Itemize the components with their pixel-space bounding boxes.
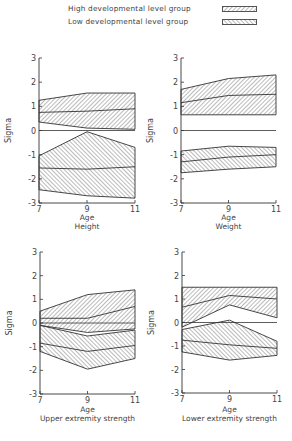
x-tick-label: 11 [271, 205, 281, 214]
y-tick-label: 2 [173, 78, 178, 87]
y-axis-label: Sigma [146, 118, 155, 143]
y-tick-label: -2 [171, 366, 179, 375]
y-tick-label: 0 [173, 127, 178, 136]
y-tick-label: 0 [31, 127, 36, 136]
y-tick-label: 2 [174, 272, 179, 281]
chart-title: Weight [215, 222, 241, 231]
charts-container: 3210-1-2-37911SigmaAgeHeight 3210-1-2-37… [0, 0, 292, 441]
y-tick-label: 0 [174, 319, 179, 328]
y-tick-label: -3 [170, 199, 178, 208]
chart-height: 3210-1-2-37911SigmaAgeHeight [4, 54, 140, 231]
y-tick-label: -1 [171, 342, 179, 351]
y-tick-label: -2 [28, 175, 36, 184]
x-axis-label: Age [80, 405, 95, 414]
chart-title: Lower extremity strength [182, 414, 277, 423]
x-axis-label: Age [221, 213, 236, 222]
y-tick-label: 2 [31, 78, 36, 87]
x-tick-label: 9 [227, 395, 232, 404]
y-tick-label: 3 [173, 54, 178, 63]
y-tick-label: -3 [29, 390, 37, 399]
low-group-band [181, 146, 276, 173]
x-tick-label: 11 [130, 396, 140, 405]
chart-upper-extremity-strength: 3210-1-2-37911SigmaAgeUpper extremity st… [5, 248, 140, 423]
y-tick-label: 1 [31, 102, 36, 111]
chart-title: Height [75, 222, 100, 231]
chart-title: Upper extremity strength [40, 414, 135, 423]
y-tick-label: -1 [170, 151, 178, 160]
y-tick-label: 1 [32, 295, 37, 304]
y-axis-label: Sigma [147, 310, 156, 335]
y-axis-label: Sigma [5, 310, 14, 335]
y-tick-label: 3 [174, 248, 179, 257]
x-tick-label: 7 [178, 205, 183, 214]
x-tick-label: 11 [272, 395, 282, 404]
y-tick-label: -2 [29, 366, 37, 375]
y-tick-label: -1 [29, 343, 37, 352]
chart-weight: 3210-1-2-37911SigmaAgeWeight [146, 54, 281, 231]
high-group-band [40, 290, 135, 333]
y-tick-label: -3 [28, 199, 36, 208]
chart-lower-extremity-strength: 3210-1-2-37911SigmaAgeLower extremity st… [147, 248, 282, 423]
y-tick-label: -3 [171, 389, 179, 398]
x-tick-label: 7 [179, 395, 184, 404]
y-tick-label: 3 [31, 54, 36, 63]
y-tick-label: -2 [170, 175, 178, 184]
y-tick-label: 3 [32, 248, 37, 257]
x-axis-label: Age [222, 405, 237, 414]
y-tick-label: -1 [28, 151, 36, 160]
x-tick-label: 7 [36, 205, 41, 214]
x-axis-label: Age [80, 213, 95, 222]
y-tick-label: 1 [174, 295, 179, 304]
low-group-band [39, 132, 135, 198]
y-tick-label: 0 [32, 319, 37, 328]
x-tick-label: 11 [130, 205, 140, 214]
y-tick-label: 2 [32, 272, 37, 281]
y-axis-label: Sigma [4, 118, 13, 143]
y-tick-label: 1 [173, 102, 178, 111]
x-tick-label: 7 [37, 396, 42, 405]
low-group-band [182, 320, 277, 360]
x-tick-label: 9 [85, 396, 90, 405]
